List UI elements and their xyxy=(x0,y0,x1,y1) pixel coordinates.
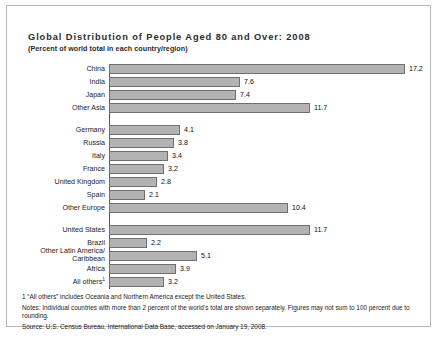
bar xyxy=(109,264,176,274)
bar-category-label: Russia xyxy=(13,138,105,148)
bar-category-label: Other Asia xyxy=(13,103,105,113)
bar-row: United States11.7 xyxy=(7,225,446,235)
bar-row: Other Europe10.4 xyxy=(7,203,446,213)
bar-value-label: 4.1 xyxy=(184,125,194,135)
footnote-source: Source: U.S. Census Bureau, Internationa… xyxy=(22,323,426,331)
bar-row: United Kingdom2.8 xyxy=(7,177,446,187)
bar-value-label: 3.9 xyxy=(180,264,190,274)
bar-row: All others13.2 xyxy=(7,277,446,287)
figure-frame: Global Distribution of People Aged 80 an… xyxy=(6,5,431,327)
footnote-source-text: Source: U.S. Census Bureau, Internationa… xyxy=(22,323,267,330)
bar-category-label: Other Latin America/Caribbean xyxy=(13,248,105,264)
chart-subtitle: (Percent of world total in each country/… xyxy=(28,44,418,53)
bar xyxy=(109,251,197,261)
bar-category-label: France xyxy=(13,164,105,174)
bar-value-label: 17.2 xyxy=(409,64,423,74)
bar-value-label: 3.2 xyxy=(168,164,178,174)
chart-title: Global Distribution of People Aged 80 an… xyxy=(28,32,418,42)
bar xyxy=(109,238,147,248)
bar-row: China17.2 xyxy=(7,64,446,74)
bar-value-label: 10.4 xyxy=(292,203,306,213)
bar xyxy=(109,190,145,200)
bar-value-label: 11.7 xyxy=(314,103,327,113)
bar xyxy=(109,203,288,213)
footnotes-block: 1 “All others” includes Oceania and Nort… xyxy=(22,293,426,331)
bar-value-label: 7.4 xyxy=(240,90,250,100)
bar-chart-plot: China17.2India7.6Japan7.4Other Asia11.7G… xyxy=(7,64,446,289)
bar xyxy=(109,64,405,74)
footnote-notes: Notes: Individual countries with more th… xyxy=(22,304,426,321)
bar-value-label: 11.7 xyxy=(314,225,327,235)
bar-row: Germany4.1 xyxy=(7,125,446,135)
bar-category-label: United States xyxy=(13,225,105,235)
bar xyxy=(109,90,236,100)
bar xyxy=(109,177,157,187)
bar-value-label: 5.1 xyxy=(201,251,211,261)
bar xyxy=(109,151,168,161)
bar-row: Russia3.8 xyxy=(7,138,446,148)
bar-row: India7.6 xyxy=(7,77,446,87)
bar-category-label: Germany xyxy=(13,125,105,135)
bar-value-label: 7.6 xyxy=(244,77,254,87)
footnote-marker-note: 1 “All others” includes Oceania and Nort… xyxy=(22,293,426,301)
bar-category-label: China xyxy=(13,64,105,74)
bar xyxy=(109,77,240,87)
bar-row: Italy3.4 xyxy=(7,151,446,161)
bar-row: Other Asia11.7 xyxy=(7,103,446,113)
bar xyxy=(109,225,310,235)
bar-category-label: Africa xyxy=(13,264,105,274)
bar xyxy=(109,103,310,113)
bar-category-label: All others1 xyxy=(13,277,105,287)
bar-category-label: Spain xyxy=(13,190,105,200)
bar-value-label: 2.1 xyxy=(149,190,159,200)
bar-value-label: 3.2 xyxy=(168,277,178,287)
footnote-marker-note-text: 1 “All others” includes Oceania and Nort… xyxy=(22,293,246,300)
bar xyxy=(109,164,164,174)
bar-category-label: India xyxy=(13,77,105,87)
bar-row: Japan7.4 xyxy=(7,90,446,100)
bar-row: Spain2.1 xyxy=(7,190,446,200)
bar-category-label: Japan xyxy=(13,90,105,100)
chart-header: Global Distribution of People Aged 80 an… xyxy=(28,32,418,53)
bar-category-label: Other Europe xyxy=(13,203,105,213)
bar xyxy=(109,125,180,135)
bar-value-label: 3.8 xyxy=(178,138,188,148)
bar-category-label: Italy xyxy=(13,151,105,161)
bar-category-label: United Kingdom xyxy=(13,177,105,187)
bar-row: Africa3.9 xyxy=(7,264,446,274)
bar-value-label: 2.2 xyxy=(151,238,161,248)
bar-value-label: 3.4 xyxy=(172,151,182,161)
bar-value-label: 2.8 xyxy=(161,177,171,187)
footnote-notes-text: Notes: Individual countries with more th… xyxy=(22,304,410,319)
footnote-marker: 1 xyxy=(102,276,105,282)
bar xyxy=(109,138,174,148)
bar xyxy=(109,277,164,287)
bar-row: Other Latin America/Caribbean5.1 xyxy=(7,251,446,261)
bar-row: France3.2 xyxy=(7,164,446,174)
